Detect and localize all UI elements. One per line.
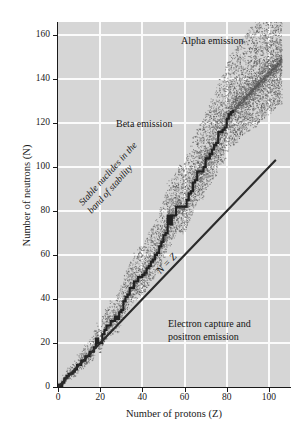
plot-area: Alpha emission Beta emission Electron ca…	[58, 22, 290, 387]
x-tick-label: 40	[127, 392, 157, 402]
y-tick	[53, 167, 57, 168]
y-tick	[53, 299, 57, 300]
x-axis-title: Number of protons (Z)	[58, 408, 290, 419]
y-axis-title: Number of neutrons (N)	[21, 86, 32, 306]
y-tick-label: 140	[20, 73, 50, 83]
y-tick	[53, 255, 57, 256]
nuclide-band-of-stability-chart: Alpha emission Beta emission Electron ca…	[0, 0, 301, 444]
y-tick	[53, 123, 57, 124]
annotation-alpha-emission: Alpha emission	[181, 35, 244, 48]
y-axis-line	[57, 22, 58, 388]
annotation-electron-capture-line2: positron emission	[168, 331, 239, 342]
y-tick-label: 0	[20, 381, 50, 391]
x-tick-label: 80	[212, 392, 242, 402]
x-tick-label: 0	[43, 392, 73, 402]
y-tick	[53, 79, 57, 80]
x-axis-line	[57, 387, 291, 388]
y-tick	[53, 343, 57, 344]
x-tick-label: 100	[254, 392, 284, 402]
annotation-electron-capture: Electron capture and positron emission	[168, 318, 283, 343]
x-tick-label: 20	[85, 392, 115, 402]
annotation-electron-capture-line1: Electron capture and	[168, 318, 251, 329]
y-tick	[53, 387, 57, 388]
y-tick	[53, 211, 57, 212]
y-tick	[53, 35, 57, 36]
y-tick-label: 160	[20, 29, 50, 39]
x-tick-label: 60	[170, 392, 200, 402]
y-tick-label: 20	[20, 337, 50, 347]
